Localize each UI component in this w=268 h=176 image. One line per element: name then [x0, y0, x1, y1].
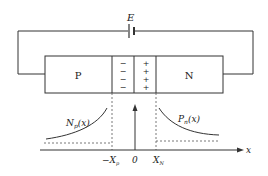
- pn-label: Pn(x): [177, 114, 201, 125]
- n-region-label: N: [185, 70, 194, 81]
- p-region-label: P: [75, 70, 82, 81]
- np-label: Np(x): [65, 118, 90, 130]
- battery-label: E: [126, 12, 135, 23]
- x-axis-arrow-icon: [237, 148, 244, 153]
- negative-charges: − − − −: [120, 59, 127, 92]
- battery-icon: [129, 24, 134, 38]
- svg-text:+: +: [143, 83, 150, 92]
- tick-zero: 0: [132, 155, 138, 165]
- pn-junction-diagram: E P N − − − − + + + + Np(x) Pn(x) x −Xp …: [0, 0, 268, 176]
- y-axis-arrow-icon: [133, 104, 138, 111]
- svg-text:−: −: [120, 83, 127, 92]
- circuit-wire: [18, 31, 253, 74]
- tick-xn: XN: [152, 155, 164, 166]
- tick-neg-xp: −Xp: [102, 155, 120, 167]
- x-axis-label: x: [246, 145, 251, 155]
- positive-charges: + + + +: [143, 59, 150, 92]
